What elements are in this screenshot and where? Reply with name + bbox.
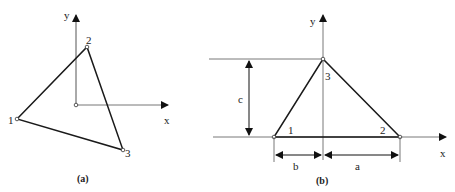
y-axis-label-b: y [310,15,316,27]
triangle-element-a [17,47,123,150]
node-3-b [321,57,325,61]
node-label-2-b: 2 [380,124,386,136]
caption-a: (a) [77,173,89,185]
x-axis-label-a: x [164,114,170,126]
figure-a: y x 1 2 3 (a) [8,9,170,185]
dimension-c-label: c [238,93,243,105]
diagram-canvas: y x 1 2 3 (a) y x 1 2 3 c b [0,0,455,192]
node-label-3-a: 3 [125,147,131,159]
dimension-b-label: b [293,160,299,172]
dimension-a-label: a [355,160,360,172]
node-label-2-a: 2 [86,34,92,46]
y-axis-label-a: y [64,9,70,21]
figure-b: y x 1 2 3 c b a (b) [209,15,446,187]
caption-b: (b) [316,175,328,187]
node-label-1-a: 1 [8,114,14,126]
node-1-a [15,117,19,121]
x-axis-label-b: x [440,147,446,159]
origin-a [74,103,78,107]
node-label-1-b: 1 [288,124,294,136]
node-label-3-b: 3 [325,70,331,82]
